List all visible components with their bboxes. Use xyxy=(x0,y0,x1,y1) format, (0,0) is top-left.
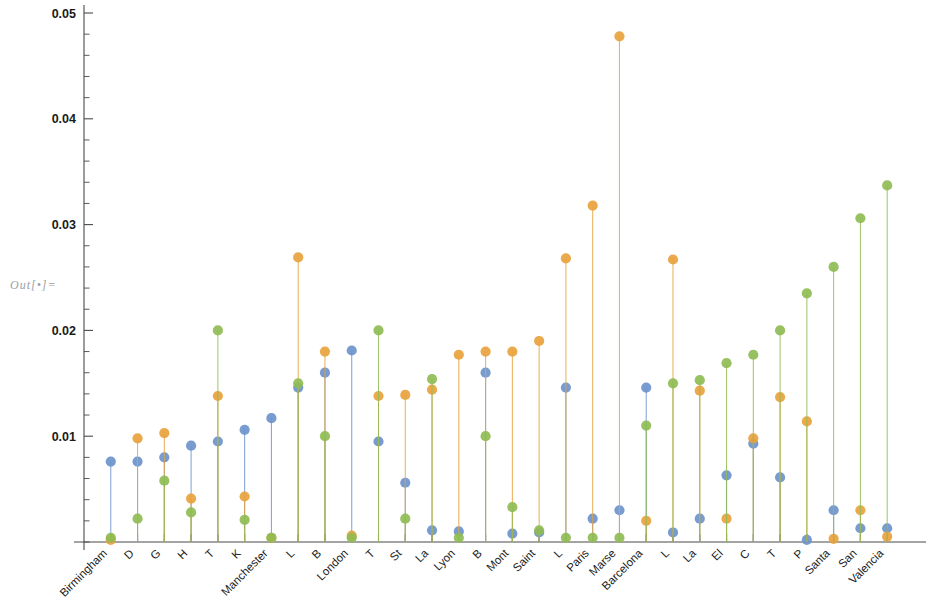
data-point xyxy=(266,533,276,543)
x-tick-label: L xyxy=(551,547,564,560)
x-tick-label: P xyxy=(791,547,805,561)
data-point xyxy=(588,200,598,210)
data-point xyxy=(721,358,731,368)
x-tick-label: San xyxy=(836,547,859,570)
data-point xyxy=(454,350,464,360)
x-tick-label: L xyxy=(658,547,671,560)
series-blue-series xyxy=(106,345,893,545)
data-point xyxy=(293,378,303,388)
data-point xyxy=(427,374,437,384)
data-point xyxy=(132,433,142,443)
data-point xyxy=(400,514,410,524)
stem-plot-chart: 0.050.040.030.020.01BirminghamDGHTKManch… xyxy=(0,0,935,608)
x-tick-label: T xyxy=(363,547,376,560)
data-point xyxy=(641,382,651,392)
x-tick-label: Lyon xyxy=(431,547,457,573)
x-tick-label: Santa xyxy=(802,547,832,577)
y-tick-label: 0.03 xyxy=(52,218,76,232)
data-point xyxy=(373,325,383,335)
data-point xyxy=(480,431,490,441)
x-tick-label: H xyxy=(175,547,189,561)
data-point xyxy=(882,180,892,190)
x-tick-label: D xyxy=(122,547,136,561)
data-point xyxy=(132,514,142,524)
data-point xyxy=(614,533,624,543)
data-point xyxy=(186,494,196,504)
data-point xyxy=(320,431,330,441)
x-tick-label: K xyxy=(229,547,243,561)
data-point xyxy=(266,413,276,423)
data-point xyxy=(320,346,330,356)
data-point xyxy=(829,262,839,272)
data-point xyxy=(855,213,865,223)
data-point xyxy=(106,456,116,466)
data-point xyxy=(695,375,705,385)
series-orange-series xyxy=(106,31,893,545)
data-point xyxy=(240,515,250,525)
data-point xyxy=(748,350,758,360)
data-point xyxy=(159,476,169,486)
x-tick-label: B xyxy=(309,547,323,561)
x-tick-label: T xyxy=(203,547,216,560)
x-tick-label: T xyxy=(765,547,778,560)
data-point xyxy=(159,428,169,438)
y-tick-label: 0.05 xyxy=(52,7,76,21)
data-point xyxy=(561,253,571,263)
data-point xyxy=(668,254,678,264)
data-point xyxy=(106,533,116,543)
x-tick-label: El xyxy=(709,547,725,563)
data-point xyxy=(668,378,678,388)
x-tick-label: Birmingham xyxy=(57,547,109,599)
data-point xyxy=(561,533,571,543)
x-tick-label: C xyxy=(737,547,751,561)
y-tick-label: 0.01 xyxy=(52,430,76,444)
data-point xyxy=(802,288,812,298)
x-tick-label: St xyxy=(388,546,405,563)
data-point xyxy=(454,533,464,543)
series-green-series xyxy=(106,180,893,543)
data-point xyxy=(213,325,223,335)
data-point xyxy=(293,252,303,262)
data-point xyxy=(775,325,785,335)
data-point xyxy=(186,507,196,517)
x-tick-label: Manchester xyxy=(219,547,270,598)
data-point xyxy=(614,31,624,41)
data-point xyxy=(400,390,410,400)
x-tick-label: Mont xyxy=(484,546,511,573)
y-tick-label: 0.04 xyxy=(52,112,76,126)
y-tick-label: 0.02 xyxy=(52,324,76,338)
data-point xyxy=(480,346,490,356)
data-point xyxy=(347,345,357,355)
x-tick-label: L xyxy=(284,547,297,560)
data-point xyxy=(507,502,517,512)
x-tick-label: La xyxy=(681,547,699,565)
data-point xyxy=(534,525,544,535)
data-point xyxy=(240,491,250,501)
x-tick-label: B xyxy=(470,547,484,561)
x-tick-label: G xyxy=(148,547,163,562)
data-point xyxy=(347,533,357,543)
data-point xyxy=(507,346,517,356)
data-point xyxy=(240,425,250,435)
x-tick-label: La xyxy=(413,547,431,565)
data-point xyxy=(641,421,651,431)
x-tick-label: Saint xyxy=(511,546,539,574)
data-point xyxy=(534,336,544,346)
data-point xyxy=(588,533,598,543)
data-point xyxy=(186,441,196,451)
mathematica-output-cell: Out[•]= 0.050.040.030.020.01BirminghamDG… xyxy=(0,0,935,608)
